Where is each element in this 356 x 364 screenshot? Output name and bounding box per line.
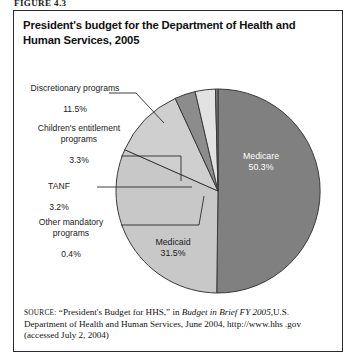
pie-slices (116, 89, 320, 293)
source-italic-title: Budget in Brief FY 2005, (182, 307, 273, 317)
callout-other-mandatory: Other mandatory programs 0.4% (19, 207, 123, 259)
source-prefix: SOURCE: (24, 308, 57, 317)
pie-label-medicare-name: Medicare (243, 151, 279, 161)
callout-childrens-entitlement-pct: 3.3% (69, 155, 89, 165)
callout-other-mandatory-name: Other mandatory programs (39, 217, 103, 237)
callout-childrens-entitlement-name: Children's entitlement programs (38, 123, 120, 143)
pie-label-medicaid-pct: 31.5% (161, 248, 186, 258)
pie-label-medicaid-name: Medicaid (155, 237, 190, 247)
callout-childrens-entitlement: Children's entitlement programs 3.3% (26, 113, 132, 165)
callout-discretionary-name: Discretionary programs (31, 83, 120, 93)
figure-box: President's budget for the Department of… (13, 10, 343, 352)
source-note: SOURCE: “President's Budget for HHS,” in… (24, 307, 334, 342)
callout-other-mandatory-pct: 0.4% (61, 249, 81, 259)
source-in: in (172, 307, 179, 317)
pie-label-medicare-pct: 50.3% (249, 162, 274, 172)
source-quoted: “President's Budget for HHS,” (59, 307, 170, 317)
callout-discretionary: Discretionary programs 11.5% (16, 73, 134, 115)
callout-tanf-name: TANF (48, 181, 70, 191)
pie-slice-medicare (217, 89, 320, 293)
figure-label: FIGURE 4.3 (14, 0, 67, 8)
